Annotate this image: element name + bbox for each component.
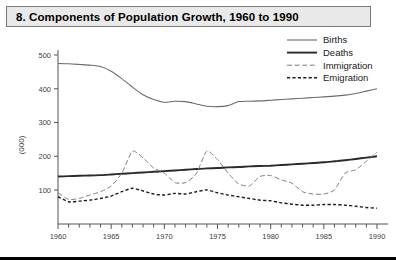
x-axis-tick-label: 1970: [156, 232, 173, 241]
x-axis-tick-label: 1980: [262, 232, 279, 241]
legend-label-deaths: Deaths: [323, 47, 353, 58]
y-axis-tick-label: 100: [38, 186, 51, 195]
figure-container: 8. Components of Population Growth, 1960…: [0, 0, 396, 261]
legend-label-emigration: Emigration: [323, 72, 368, 83]
x-axis-tick-label: 1985: [315, 232, 332, 241]
bottom-rule: [0, 257, 396, 260]
x-axis-tick-label: 1975: [209, 232, 226, 241]
y-axis-tick-label: 200: [38, 152, 51, 161]
line-chart: 100200300400500(000)19601965197019751980…: [0, 0, 396, 261]
series-line-emigration: [58, 188, 377, 208]
y-axis-tick-label: 300: [38, 118, 51, 127]
y-axis-tick-label: 400: [38, 85, 51, 94]
chart-plot-area: 100200300400500(000)19601965197019751980…: [0, 0, 396, 261]
y-axis-title: (000): [17, 135, 26, 154]
y-axis-tick-label: 500: [38, 51, 51, 60]
legend-label-births: Births: [323, 34, 348, 45]
x-axis-tick-label: 1960: [50, 232, 67, 241]
legend-label-immigration: Immigration: [323, 60, 373, 71]
x-axis-tick-label: 1990: [369, 232, 386, 241]
x-axis-tick-label: 1965: [103, 232, 120, 241]
